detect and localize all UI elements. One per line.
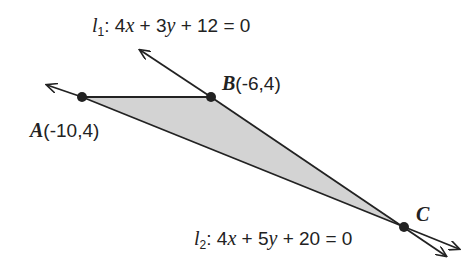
- point-c-label: C: [416, 203, 430, 225]
- l2-label: l2: 4x + 5y + 20 = 0: [194, 227, 352, 252]
- line-l1-upper-arrow: [140, 50, 211, 97]
- point-a-dot: [77, 92, 87, 102]
- point-b-label: B(-6,4): [221, 72, 281, 94]
- triangle-diagram: l1: 4x + 3y + 12 = 0 l2: 4x + 5y + 20 = …: [0, 0, 476, 264]
- l1-label: l1: 4x + 3y + 12 = 0: [92, 14, 250, 39]
- line-l2-left-arrow: [47, 85, 82, 97]
- point-a-label: A(-10,4): [28, 119, 99, 141]
- point-c-dot: [399, 222, 409, 232]
- point-b-dot: [206, 92, 216, 102]
